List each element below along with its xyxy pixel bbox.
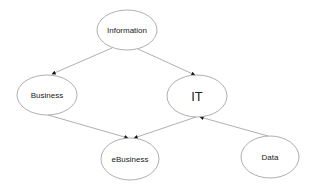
edge-information-business <box>52 48 112 74</box>
edge-information-it <box>138 49 195 75</box>
node-data-label: Data <box>262 153 279 162</box>
edge-data-it <box>200 117 268 136</box>
node-information: Information <box>97 10 157 50</box>
edge-business-ebusiness <box>48 115 128 138</box>
node-it-label: IT <box>191 89 203 104</box>
node-ebusiness: eBusiness <box>101 138 159 180</box>
node-information-label: Information <box>107 26 147 35</box>
node-ebusiness-label: eBusiness <box>112 155 149 164</box>
node-business: Business <box>17 75 77 115</box>
node-it: IT <box>167 75 227 117</box>
edge-it-ebusiness <box>134 117 196 138</box>
node-data: Data <box>241 136 299 178</box>
node-business-label: Business <box>31 91 63 100</box>
diagram-canvas: Information Business IT eBusiness Data <box>0 0 315 190</box>
